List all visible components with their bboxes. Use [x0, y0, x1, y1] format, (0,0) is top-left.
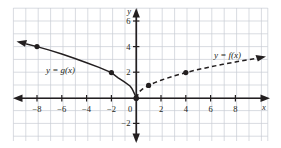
grid-lines	[13, 8, 267, 141]
y-axis-arrow-up	[133, 8, 140, 18]
x-tick-label-origin: 0	[128, 104, 132, 114]
y-tick-label: 6	[126, 16, 130, 26]
x-axis-label: x	[261, 102, 266, 112]
x-tick-label: −8	[32, 104, 41, 114]
x-axis-arrow-right	[261, 94, 271, 102]
curve-f-point-1-1	[146, 83, 151, 88]
curve-f-group: y = f(x)	[134, 50, 266, 101]
curve-f-path	[136, 58, 257, 98]
x-tick-label: −6	[57, 104, 66, 114]
y-axis-label: y	[126, 6, 131, 16]
curve-f-label: y = f(x)	[213, 50, 241, 60]
curve-g-point-neg8-4	[34, 44, 39, 49]
curve-g-group: y = g(x)	[17, 40, 139, 101]
coordinate-plane-svg: −8 −6 −4 −2 0 2 4 6 8 6 4 2 −2 y x y = f…	[0, 0, 281, 148]
curve-g-path	[27, 44, 137, 98]
coordinate-graph-figure: −8 −6 −4 −2 0 2 4 6 8 6 4 2 −2 y x y = f…	[0, 0, 281, 148]
x-tick-label: 2	[159, 104, 163, 114]
curve-f-point-4-2	[183, 70, 188, 75]
curve-g-point-neg2-2	[109, 70, 114, 75]
y-tick-label: 2	[126, 67, 130, 77]
x-tick-label: −2	[107, 104, 116, 114]
curve-g-point-origin	[134, 96, 139, 101]
axes	[13, 8, 270, 143]
y-axis-arrow-down	[133, 134, 140, 144]
x-axis-arrow-left	[13, 94, 23, 102]
x-tick-label: 8	[233, 104, 237, 114]
curve-g-label: y = g(x)	[45, 65, 75, 75]
x-tick-labels: −8 −6 −4 −2 0 2 4 6 8	[32, 104, 237, 114]
x-tick-label: 6	[208, 104, 212, 114]
y-tick-label: −2	[121, 118, 130, 128]
x-tick-label: −4	[82, 104, 92, 114]
curve-g-arrowhead	[17, 40, 28, 47]
curve-f-arrowhead	[256, 55, 267, 62]
x-tick-label: 4	[184, 104, 189, 114]
